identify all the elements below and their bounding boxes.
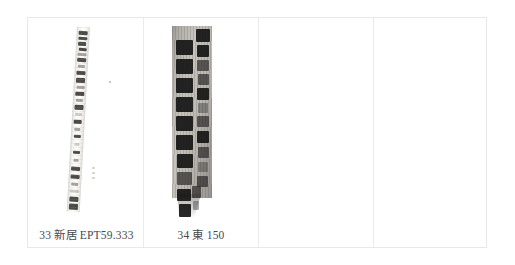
slip-caption-1: 33 新居 EPT59.333 — [28, 228, 144, 247]
figure-area-3 — [259, 18, 373, 242]
slip-caption-4 — [374, 242, 486, 247]
figure-area-1 — [28, 18, 143, 228]
plate-cell-4 — [374, 18, 486, 247]
slip-34-surface — [172, 26, 212, 198]
slip-33-surface — [67, 27, 90, 212]
image-speck — [109, 81, 111, 83]
slip-caption-2: 34 東 150 — [144, 228, 258, 247]
bamboo-slip-34 — [172, 26, 218, 218]
bamboo-slip-33 — [74, 27, 96, 212]
figure-area-2 — [144, 18, 258, 228]
slip-caption-3 — [259, 242, 373, 247]
plate-cell-3 — [259, 18, 374, 247]
plate-cell-2: 34 東 150 — [144, 18, 259, 247]
plate-cell-1: 33 新居 EPT59.333 — [28, 18, 144, 247]
bamboo-slip-plate: 33 新居 EPT59.333 — [27, 17, 487, 248]
figure-area-4 — [374, 18, 486, 242]
